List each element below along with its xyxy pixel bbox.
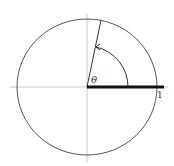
angle-arc (96, 47, 128, 87)
unit-label: 1 (157, 90, 163, 100)
theta-label: θ (91, 74, 97, 85)
unit-circle-diagram: θ 1 (0, 0, 174, 166)
